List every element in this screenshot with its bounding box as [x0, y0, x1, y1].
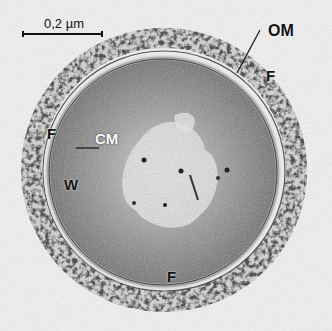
micrograph-image — [0, 0, 332, 331]
label-fibrils-left: F — [47, 126, 56, 141]
micrograph-figure: 0,2 µm OM F F CM W F — [0, 0, 332, 331]
scale-bar-label: 0,2 µm — [44, 16, 84, 31]
label-cytoplasmic-membrane: CM — [95, 131, 118, 146]
label-outer-membrane: OM — [268, 23, 294, 39]
scale-bar — [22, 33, 103, 35]
label-fibrils-top-right: F — [266, 68, 275, 83]
label-fibrils-bottom: F — [167, 269, 176, 284]
label-cell-wall: W — [64, 177, 78, 192]
